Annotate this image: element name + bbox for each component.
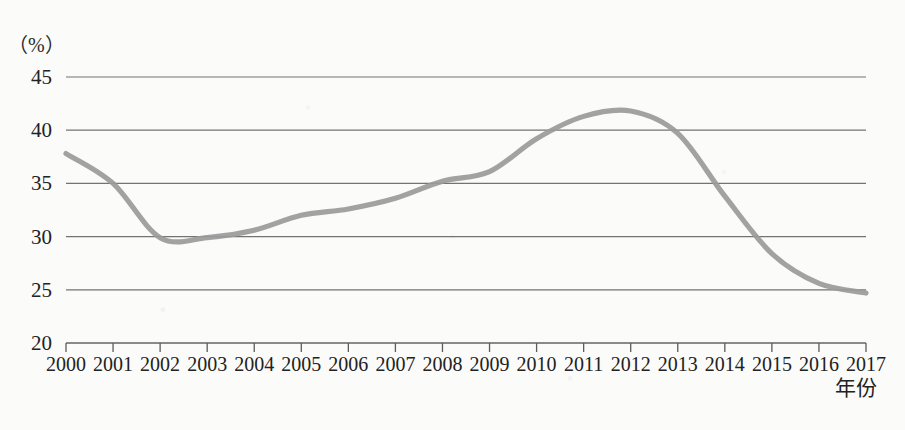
x-axis-tick-label: 2012 [611, 353, 651, 375]
x-axis-tick-label: 2010 [517, 353, 557, 375]
y-axis-tick-label: 20 [31, 331, 52, 355]
x-axis-title: 年份 [835, 376, 877, 400]
x-axis-tick-label: 2000 [46, 353, 86, 375]
x-axis-tick-label: 2014 [705, 353, 745, 375]
data-series-line [66, 110, 866, 293]
gridlines [66, 77, 866, 343]
x-axis-tick-label: 2013 [658, 353, 698, 375]
x-axis-tick-labels: 2000200120022003200420052006200720082009… [46, 353, 886, 375]
x-axis-tick-label: 2011 [564, 353, 603, 375]
x-axis-tick-label: 2017 [846, 353, 886, 375]
x-axis-tick-label: 2006 [328, 353, 368, 375]
chart-canvas: 202530354045 200020012002200320042005200… [0, 0, 905, 430]
x-axis-tick-label: 2001 [93, 353, 133, 375]
line-chart: 202530354045 200020012002200320042005200… [0, 0, 905, 430]
x-axis-tick-label: 2015 [752, 353, 792, 375]
y-axis-tick-label: 45 [31, 65, 52, 89]
x-axis-ticks [66, 343, 866, 352]
y-axis-tick-label: 25 [31, 278, 52, 302]
y-axis-tick-label: 35 [31, 171, 52, 195]
x-axis-tick-label: 2004 [234, 353, 274, 375]
y-axis-tick-label: 40 [31, 118, 52, 142]
x-axis-tick-label: 2005 [281, 353, 321, 375]
y-axis-tick-labels: 202530354045 [31, 65, 52, 355]
x-axis-tick-label: 2007 [375, 353, 415, 375]
x-axis-tick-label: 2002 [140, 353, 180, 375]
y-axis-tick-label: 30 [31, 225, 52, 249]
x-axis-tick-label: 2003 [187, 353, 227, 375]
x-axis-tick-label: 2016 [799, 353, 839, 375]
x-axis-tick-label: 2008 [422, 353, 462, 375]
x-axis-tick-label: 2009 [470, 353, 510, 375]
y-axis-unit-label: （%） [8, 34, 65, 56]
